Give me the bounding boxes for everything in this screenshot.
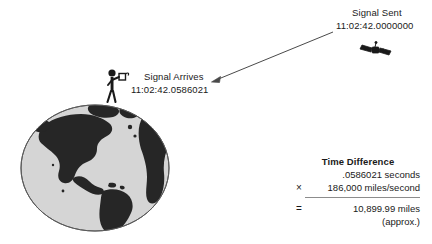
gps-signal-timing-diagram: Signal Sent 11:02:42.0000000 Signal Arri… [0,0,432,244]
signal-sent-timestamp: 11:02:42.0000000 [336,20,414,33]
time-difference-calculation: Time Difference .0586021 seconds × 186,0… [296,155,424,228]
satellite [358,40,392,60]
satellite-icon [358,40,392,60]
calculation-value: .0586021 seconds [310,168,424,181]
calculation-operator: × [296,181,310,194]
person-with-gps-receiver [103,66,133,104]
calculation-result-operator: = [296,202,310,215]
calculation-result-value: 10,899.99 miles [310,202,424,215]
calculation-result-row: = 10,899.99 miles [296,202,424,215]
calculation-title: Time Difference [296,155,424,168]
calculation-row: .0586021 seconds [296,168,424,181]
signal-arrives-title: Signal Arrives [131,71,209,84]
person-with-gps-receiver-icon [103,66,133,104]
globe-icon [17,103,173,233]
signal-sent-label: Signal Sent 11:02:42.0000000 [336,7,414,32]
calculation-row: × 186,000 miles/second [296,181,424,194]
calculation-approx-note: (approx.) [296,215,424,228]
earth-globe [17,103,173,233]
calculation-divider [305,197,420,198]
signal-arrives-label: Signal Arrives 11:02:42.0586021 [131,71,209,96]
signal-sent-title: Signal Sent [336,7,414,20]
signal-arrives-timestamp: 11:02:42.0586021 [131,84,209,97]
calculation-value: 186,000 miles/second [310,181,424,194]
signal-path-arrow-icon [212,32,334,83]
